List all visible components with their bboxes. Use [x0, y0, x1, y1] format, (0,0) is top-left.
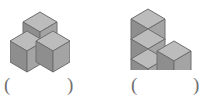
figure-group-right — [101, 0, 201, 72]
close-paren-1: ) — [67, 74, 73, 96]
answer-blank-2[interactable]: ( ) — [101, 72, 201, 99]
figure-group-left — [0, 0, 100, 72]
open-paren-2: ( — [131, 74, 137, 96]
close-paren-2: ) — [193, 74, 199, 96]
left-figure-svg — [10, 11, 70, 73]
left-cube-figure — [0, 0, 100, 72]
open-paren-1: ( — [4, 74, 10, 96]
right-figure-svg — [130, 8, 192, 70]
right-cube-figure — [101, 0, 201, 72]
worksheet: ( ) ( ) — [0, 0, 201, 99]
answer-blank-1[interactable]: ( ) — [0, 72, 100, 99]
